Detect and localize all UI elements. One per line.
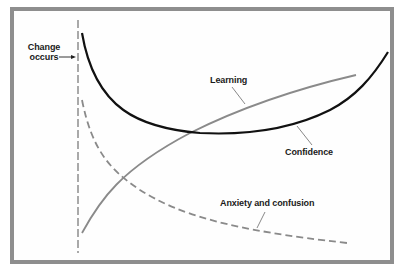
change-arrow-icon: [59, 55, 76, 59]
change-occurs-label: Change occurs: [27, 42, 61, 62]
learning-label: Learning: [210, 75, 247, 85]
change-label-line2: occurs: [27, 52, 61, 62]
diagram-canvas: [0, 0, 397, 273]
learning-leader-line: [232, 87, 245, 104]
change-curve-diagram: Change occurs Learning Confidence Anxiet…: [0, 0, 397, 273]
confidence-label: Confidence: [285, 147, 333, 157]
anxiety-leader-line: [257, 212, 265, 228]
change-label-line1: Change: [27, 42, 61, 52]
anxiety-label: Anxiety and confusion: [220, 198, 314, 208]
confidence-leader-line: [297, 126, 312, 145]
